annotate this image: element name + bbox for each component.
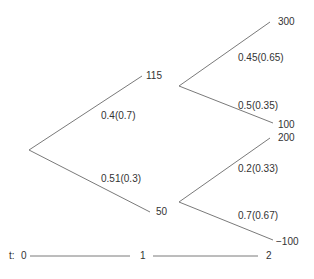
node-100: 100: [278, 119, 295, 131]
edge-label-0-5: 0.5(0.35): [238, 100, 278, 112]
timeline-tick-1: 1: [140, 250, 146, 262]
node-minus100: −100: [276, 236, 299, 248]
tree-lines: [0, 0, 314, 279]
timeline-prefix: t:: [9, 250, 15, 262]
timeline-tick-2: 2: [266, 250, 272, 262]
edge-label-0-7: 0.7(0.67): [238, 210, 278, 222]
node-300: 300: [278, 16, 295, 28]
timeline-tick-0: 0: [21, 250, 27, 262]
node-115: 115: [146, 70, 162, 82]
node-50: 50: [156, 206, 167, 218]
edge-label-0-45: 0.45(0.65): [238, 52, 284, 64]
node-200: 200: [278, 132, 295, 144]
edge-label-0-2: 0.2(0.33): [238, 163, 278, 175]
edge-label-0-4: 0.4(0.7): [101, 110, 135, 122]
edge-label-0-51: 0.51(0.3): [101, 173, 141, 185]
